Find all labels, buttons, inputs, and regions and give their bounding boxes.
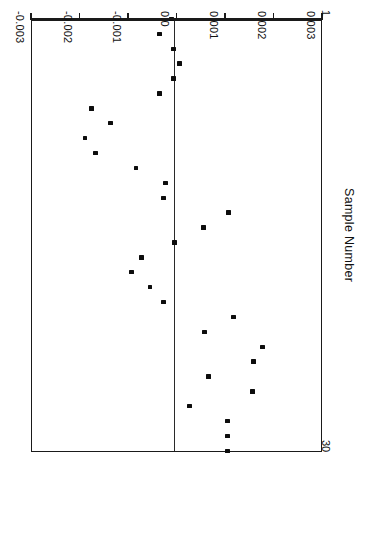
sample-axis-tick-label: 1 <box>320 10 332 16</box>
data-point <box>83 136 87 140</box>
data-point <box>163 181 167 185</box>
data-point <box>226 210 230 214</box>
data-point <box>202 330 206 334</box>
data-point <box>187 404 191 408</box>
data-point <box>225 449 229 453</box>
data-point <box>93 151 97 155</box>
data-point <box>172 240 176 244</box>
value-axis-tick <box>224 13 225 20</box>
value-axis-tick <box>30 13 31 20</box>
data-point <box>206 374 210 378</box>
value-axis-tick-label: 0.001 <box>208 11 220 40</box>
data-point <box>134 166 138 170</box>
data-point <box>157 32 161 36</box>
value-axis-tick <box>273 13 274 20</box>
data-point <box>148 285 152 289</box>
value-axis-tick-label: 0.002 <box>257 11 269 40</box>
data-point <box>171 47 175 51</box>
value-axis-tick-label: 0.003 <box>305 11 317 40</box>
data-point <box>260 345 264 349</box>
value-axis-tick <box>176 13 177 20</box>
value-axis-tick-label: 0.0 <box>160 11 172 27</box>
data-point <box>177 62 181 66</box>
value-axis-tick <box>79 13 80 20</box>
rotated-figure-wrapper: 0.0030.0020.0010.0-0.001-0.002-0.003 130… <box>0 0 378 555</box>
value-axis-tick <box>127 13 128 20</box>
sample-axis-title: Sample Number <box>342 188 356 282</box>
data-point <box>232 315 236 319</box>
data-point <box>139 255 143 259</box>
zero-reference-line <box>174 21 175 451</box>
data-point <box>129 270 133 274</box>
data-point <box>171 76 175 80</box>
data-point <box>108 121 112 125</box>
value-axis-tick-label: -0.002 <box>63 11 75 43</box>
data-point <box>157 91 161 95</box>
value-axis-tick-label: -0.003 <box>14 11 26 43</box>
data-point <box>225 434 229 438</box>
data-point <box>89 106 93 110</box>
data-point <box>201 225 205 229</box>
data-point <box>250 389 254 393</box>
data-point <box>251 359 255 363</box>
sample-axis-tick-label: 30 <box>320 440 332 452</box>
value-axis-tick-label: -0.001 <box>111 11 123 43</box>
plot-frame <box>31 20 322 452</box>
data-point <box>225 419 229 423</box>
data-point <box>161 300 165 304</box>
data-point <box>161 196 165 200</box>
cusum-scatter-figure: 0.0030.0020.0010.0-0.001-0.002-0.003 130… <box>0 0 378 555</box>
